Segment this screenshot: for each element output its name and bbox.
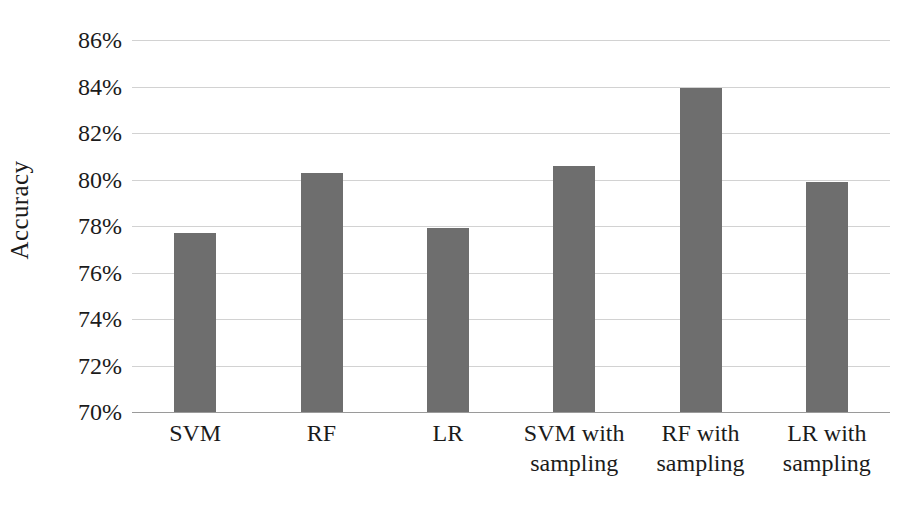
plot-area: [132, 40, 890, 412]
bar: [174, 233, 216, 412]
x-tick-label-line: RF with: [637, 418, 763, 448]
y-tick-label: 84%: [42, 75, 122, 99]
bar: [427, 228, 469, 412]
gridline-82: [132, 133, 890, 134]
y-tick-label: 86%: [42, 28, 122, 52]
gridline-70: [132, 412, 890, 413]
bar: [680, 88, 722, 412]
x-tick-label-line: sampling: [637, 448, 763, 478]
y-tick-label: 74%: [42, 307, 122, 331]
x-tick-label-line: LR with: [764, 418, 890, 448]
x-tick-label: SVM: [132, 418, 258, 448]
gridline-78: [132, 226, 890, 227]
x-tick-label-line: LR: [385, 418, 511, 448]
x-tick-label-line: RF: [258, 418, 384, 448]
gridline-86: [132, 40, 890, 41]
y-axis-title-label: Accuracy: [6, 161, 34, 260]
x-tick-label-line: SVM: [132, 418, 258, 448]
bar: [553, 166, 595, 412]
x-tick-label-line: SVM with: [511, 418, 637, 448]
x-tick-label: RF: [258, 418, 384, 448]
gridline-76: [132, 273, 890, 274]
y-tick-label: 76%: [42, 261, 122, 285]
y-axis-tick-labels: 86%84%82%80%78%76%74%72%70%: [42, 0, 128, 440]
y-tick-label: 82%: [42, 121, 122, 145]
bar: [806, 182, 848, 412]
x-tick-label-line: sampling: [764, 448, 890, 478]
gridline-72: [132, 366, 890, 367]
y-tick-label: 70%: [42, 400, 122, 424]
gridline-74: [132, 319, 890, 320]
gridline-80: [132, 180, 890, 181]
x-tick-label: SVM withsampling: [511, 418, 637, 478]
gridline-84: [132, 87, 890, 88]
x-axis-tick-labels: SVMRFLRSVM withsamplingRF withsamplingLR…: [132, 418, 890, 498]
bar: [301, 173, 343, 412]
y-tick-label: 80%: [42, 168, 122, 192]
x-tick-label: LR: [385, 418, 511, 448]
x-tick-label-line: sampling: [511, 448, 637, 478]
x-tick-label: RF withsampling: [637, 418, 763, 478]
y-axis-title: Accuracy: [0, 0, 40, 420]
bar-chart: Accuracy 86%84%82%80%78%76%74%72%70% SVM…: [0, 0, 924, 513]
x-tick-label: LR withsampling: [764, 418, 890, 478]
y-tick-label: 78%: [42, 214, 122, 238]
y-tick-label: 72%: [42, 354, 122, 378]
